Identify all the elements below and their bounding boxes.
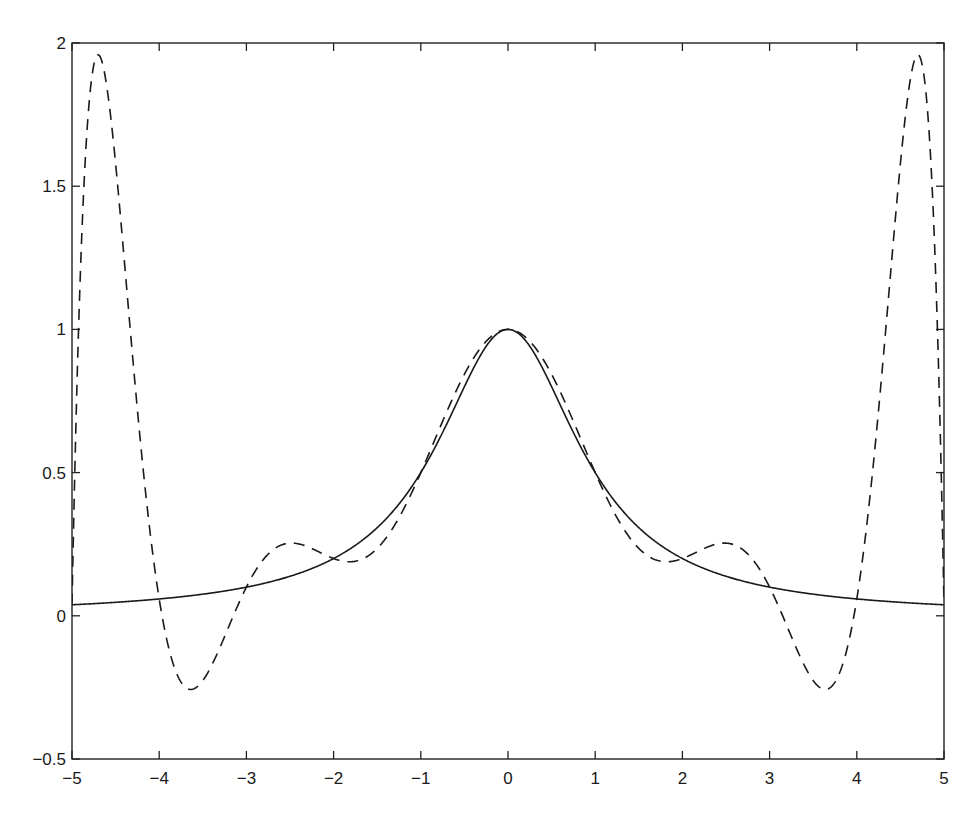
y-tick-label: 2 xyxy=(57,34,66,53)
x-tick-label: −4 xyxy=(150,769,169,788)
x-tick-label: −3 xyxy=(237,769,256,788)
x-tick-label: 1 xyxy=(590,769,599,788)
x-tick-label: −5 xyxy=(62,769,81,788)
y-tick-label: 0.5 xyxy=(42,464,66,483)
y-tick-label: −0.5 xyxy=(32,750,66,769)
y-tick-label: 1.5 xyxy=(42,177,66,196)
x-tick-label: 4 xyxy=(852,769,861,788)
y-axis: −0.500.511.52 xyxy=(32,34,944,769)
plot-frame xyxy=(72,43,944,759)
x-tick-label: −1 xyxy=(411,769,430,788)
x-tick-label: 3 xyxy=(765,769,774,788)
x-tick-label: 0 xyxy=(503,769,512,788)
series-layer xyxy=(72,55,944,690)
runge-phenomenon-chart: −5−4−3−2−1012345 −0.500.511.52 xyxy=(0,0,976,814)
y-tick-label: 0 xyxy=(57,607,66,626)
runge-function-solid-line xyxy=(72,329,944,604)
x-axis: −5−4−3−2−1012345 xyxy=(62,43,948,788)
y-tick-label: 1 xyxy=(57,320,66,339)
x-tick-label: 2 xyxy=(678,769,687,788)
x-tick-label: 5 xyxy=(939,769,948,788)
x-tick-label: −2 xyxy=(324,769,343,788)
